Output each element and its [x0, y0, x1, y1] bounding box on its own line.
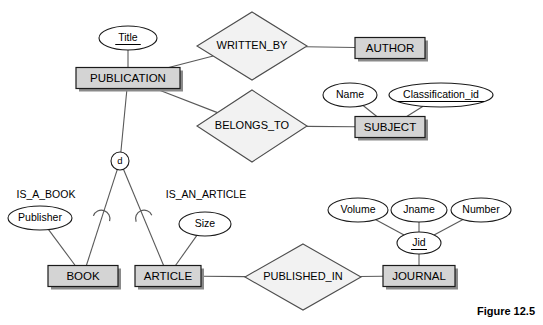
entity-subject[interactable]: SUBJECT: [355, 117, 428, 141]
isa-label-is-an-article: IS_AN_ARTICLE: [166, 188, 246, 200]
entity-label: JOURNAL: [392, 270, 446, 282]
attribute-label: Title: [118, 31, 138, 43]
er-diagram-figure: PUBLICATIONAUTHORSUBJECTBOOKARTICLEJOURN…: [0, 0, 543, 325]
connector-written-by-author: [306, 47, 355, 48]
er-diagram-canvas: PUBLICATIONAUTHORSUBJECTBOOKARTICLEJOURN…: [0, 0, 543, 325]
attribute-label: Volume: [340, 203, 375, 215]
connector-classification-subject: [407, 106, 423, 116]
attribute-classification-id[interactable]: Classification_id: [389, 83, 493, 107]
attribute-jname[interactable]: Jname: [391, 198, 447, 222]
entity-label: SUBJECT: [364, 121, 416, 133]
entity-label: BOOK: [66, 270, 100, 282]
relationship-label: PUBLISHED_IN: [263, 270, 343, 282]
connector-publication-disjoint: [121, 89, 127, 153]
isa-label-is-a-book: IS_A_BOOK: [17, 188, 76, 200]
figure-caption: Figure 12.5: [477, 305, 535, 317]
attribute-jid[interactable]: Jid: [397, 232, 441, 254]
relationship-label: BELONGS_TO: [215, 119, 290, 131]
connector-disjoint-book: [86, 170, 117, 266]
connector-name-subject: [363, 105, 377, 116]
connector-publisher-book: [49, 230, 76, 266]
connector-publication-belongs-to: [155, 89, 217, 113]
entity-label: ARTICLE: [144, 270, 193, 282]
disjoint-label: d: [117, 155, 122, 166]
attribute-name[interactable]: Name: [323, 83, 377, 107]
attribute-title[interactable]: Title: [99, 26, 157, 50]
connector-volume-jid: [376, 220, 404, 235]
connector-disjoint-article: [123, 169, 163, 265]
entity-book[interactable]: BOOK: [48, 266, 121, 290]
attribute-label: Jid: [412, 236, 426, 248]
specialization-circle-disjoint-d[interactable]: d: [111, 152, 129, 170]
attribute-label: Size: [195, 217, 216, 229]
attribute-volume[interactable]: Volume: [328, 198, 388, 222]
entity-label: AUTHOR: [366, 42, 415, 54]
relationship-label: WRITTEN_BY: [217, 39, 289, 51]
entity-journal[interactable]: JOURNAL: [383, 266, 458, 290]
attribute-number[interactable]: Number: [451, 198, 511, 222]
connector-publication-written-by: [169, 56, 214, 67]
entity-publication[interactable]: PUBLICATION: [76, 68, 183, 92]
relationship-belongs-to[interactable]: BELONGS_TO: [197, 90, 307, 162]
attribute-publisher[interactable]: Publisher: [8, 206, 72, 230]
entity-article[interactable]: ARTICLE: [135, 266, 204, 290]
attribute-label: Publisher: [18, 211, 62, 223]
connector-size-article: [175, 235, 196, 265]
connector-number-jid: [434, 220, 463, 235]
relationship-written-by[interactable]: WRITTEN_BY: [197, 12, 307, 80]
entity-label: PUBLICATION: [90, 72, 166, 84]
entity-author[interactable]: AUTHOR: [355, 38, 428, 62]
attribute-label: Classification_id: [403, 88, 479, 100]
subset-arc-article: [136, 210, 152, 222]
attribute-size[interactable]: Size: [179, 212, 231, 236]
relationship-published-in[interactable]: PUBLISHED_IN: [245, 244, 361, 310]
node-layer: PUBLICATIONAUTHORSUBJECTBOOKARTICLEJOURN…: [8, 12, 511, 310]
attribute-label: Jname: [403, 203, 435, 215]
attribute-label: Number: [462, 203, 500, 215]
attribute-label: Name: [336, 88, 364, 100]
